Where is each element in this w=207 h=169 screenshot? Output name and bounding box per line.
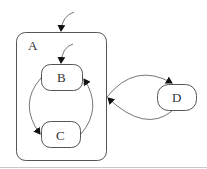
state-d[interactable]: D: [158, 85, 197, 111]
bottom-divider: [0, 167, 207, 168]
initial-transition-a[interactable]: [61, 12, 74, 31]
state-d-label: D: [172, 90, 181, 105]
state-c[interactable]: C: [42, 122, 81, 148]
state-diagram: A B C D: [0, 0, 207, 169]
state-a-label: A: [28, 38, 38, 53]
state-b-label: B: [57, 70, 66, 85]
state-b[interactable]: B: [42, 65, 83, 91]
state-c-label: C: [56, 128, 65, 143]
